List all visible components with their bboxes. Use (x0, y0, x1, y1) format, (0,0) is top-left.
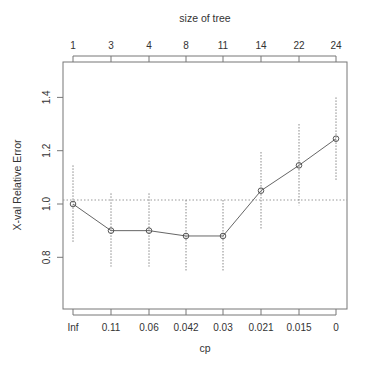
x-tick-label: 0 (333, 322, 339, 333)
x-tick-label: 0.021 (248, 322, 273, 333)
x-tick-label: 0.11 (102, 322, 121, 333)
y-tick-label: 1.0 (41, 197, 52, 211)
y-axis-label: X-val Relative Error (11, 139, 23, 231)
bottom-axis: Inf0.110.060.0420.030.0210.0150 (67, 309, 339, 333)
x-tick-label: 0.06 (139, 322, 159, 333)
cp-plot: size of tree cp X-val Relative Error 134… (0, 0, 368, 378)
top-tick-label: 8 (183, 40, 189, 51)
x-tick-label: Inf (67, 322, 78, 333)
x-tick-label: 0.015 (286, 322, 311, 333)
x-tick-label: 0.03 (213, 322, 233, 333)
top-tick-label: 14 (255, 40, 267, 51)
x-tick-label: 0.042 (173, 322, 198, 333)
top-tick-label: 24 (330, 40, 342, 51)
x-axis-label: cp (199, 342, 210, 354)
top-axis: 134811142224 (70, 40, 342, 62)
top-tick-label: 22 (293, 40, 305, 51)
plot-frame (63, 62, 347, 309)
y-tick-label: 1.2 (41, 143, 52, 157)
top-axis-label: size of tree (179, 12, 231, 24)
top-tick-label: 11 (218, 40, 229, 51)
top-tick-label: 1 (70, 40, 76, 51)
y-tick-label: 0.8 (41, 250, 52, 264)
top-tick-label: 4 (146, 40, 152, 51)
left-axis: 0.81.01.21.4 (41, 90, 63, 264)
top-tick-label: 3 (108, 40, 114, 51)
y-tick-label: 1.4 (41, 90, 52, 104)
error-bars (73, 97, 336, 272)
